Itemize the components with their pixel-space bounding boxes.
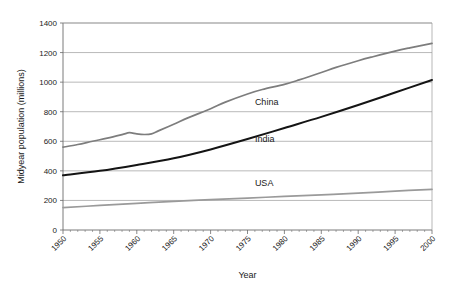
- series-label-usa: USA: [255, 178, 274, 188]
- x-tick-label-1985: 1985: [308, 234, 327, 253]
- series-line-china: [63, 43, 432, 147]
- x-axis-title: Year: [238, 270, 256, 280]
- y-tick-label-200: 200: [44, 196, 58, 205]
- x-tick-label-1975: 1975: [234, 234, 253, 253]
- y-axis-title: Midyear population (millions): [16, 69, 26, 184]
- y-tick-label-1400: 1400: [39, 19, 57, 28]
- y-tick-label-1000: 1000: [39, 78, 57, 87]
- series-inline-labels: ChinaIndiaUSA: [255, 97, 279, 188]
- x-tick-label-1965: 1965: [160, 234, 179, 253]
- y-tick-label-600: 600: [44, 137, 58, 146]
- y-axis-tick-labels: 0200400600800100012001400: [39, 19, 57, 235]
- x-tick-label-1990: 1990: [345, 234, 364, 253]
- x-tick-label-1950: 1950: [49, 234, 68, 253]
- population-line-chart: 0200400600800100012001400 19501955196019…: [0, 0, 456, 292]
- series-label-india: India: [255, 134, 275, 144]
- y-tick-label-800: 800: [44, 108, 58, 117]
- axis-lines: [63, 23, 432, 230]
- x-tick-label-2000: 2000: [418, 234, 437, 253]
- y-tick-label-0: 0: [53, 226, 58, 235]
- x-tick-label-1980: 1980: [271, 234, 290, 253]
- series-label-china: China: [255, 97, 279, 107]
- gridlines: [63, 23, 432, 200]
- x-axis-tick-labels: 1950195519601965197019751980198519901995…: [49, 234, 437, 253]
- x-tick-label-1955: 1955: [86, 234, 105, 253]
- x-axis-ticks: [63, 230, 432, 234]
- x-tick-label-1960: 1960: [123, 234, 142, 253]
- y-tick-label-400: 400: [44, 167, 58, 176]
- x-tick-label-1995: 1995: [382, 234, 401, 253]
- series-line-usa: [63, 189, 432, 207]
- data-series: [63, 43, 432, 207]
- y-tick-label-1200: 1200: [39, 49, 57, 58]
- x-tick-label-1970: 1970: [197, 234, 216, 253]
- chart-canvas: 0200400600800100012001400 19501955196019…: [0, 0, 456, 292]
